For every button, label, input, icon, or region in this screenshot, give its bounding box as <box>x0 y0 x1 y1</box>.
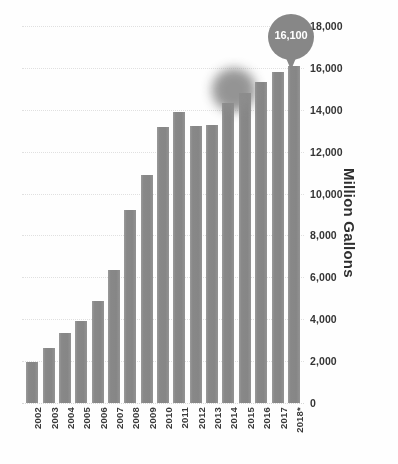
bar-slot <box>57 26 73 403</box>
bar-slot <box>188 26 204 403</box>
y-axis-tick-label: 0 <box>310 397 358 409</box>
y-axis-tick-label: 16,000 <box>310 62 358 74</box>
bar-2005 <box>75 321 87 403</box>
bar-2011 <box>173 112 185 403</box>
bar-chart-figure: 18,00016,00014,00012,00010,0008,0006,000… <box>0 0 398 464</box>
x-axis-slot: 2015 <box>237 406 253 450</box>
bar-slot <box>155 26 171 403</box>
x-axis-slot: 2009 <box>139 406 155 450</box>
x-axis-slot: 2011 <box>171 406 187 450</box>
bar-2015 <box>239 93 251 403</box>
x-axis-tick-label: 2018* <box>294 407 305 433</box>
x-axis-slot: 2003 <box>40 406 56 450</box>
bar-2006 <box>92 301 104 403</box>
bar-2016 <box>255 82 267 403</box>
bar-slot <box>286 26 302 403</box>
bar-2018 <box>288 66 300 403</box>
x-axis-slot: 2014 <box>220 406 236 450</box>
x-axis-slot: 2002 <box>24 406 40 450</box>
x-axis-slot: 2005 <box>73 406 89 450</box>
bar-slot <box>139 26 155 403</box>
bar-slot <box>89 26 105 403</box>
bar-slot <box>40 26 56 403</box>
bar-slot <box>269 26 285 403</box>
bar-series <box>22 26 304 403</box>
y-axis-tick-label: 18,000 <box>310 20 358 32</box>
bar-slot <box>171 26 187 403</box>
bar-2003 <box>43 348 55 403</box>
bar-slot <box>122 26 138 403</box>
y-axis-tick-label: 14,000 <box>310 104 358 116</box>
y-axis-tick-label: 12,000 <box>310 146 358 158</box>
bar-2007 <box>108 270 120 403</box>
bar-slot <box>220 26 236 403</box>
x-axis-slot: 2010 <box>155 406 171 450</box>
bar-2008 <box>124 210 136 403</box>
x-axis-slot: 2007 <box>106 406 122 450</box>
clipped-caption <box>0 455 398 464</box>
bar-slot <box>237 26 253 403</box>
x-axis-slot: 2017 <box>269 406 285 450</box>
bar-slot <box>204 26 220 403</box>
gridline <box>22 403 304 404</box>
plot-area <box>22 26 304 403</box>
bar-2010 <box>157 127 169 403</box>
bar-2013 <box>206 125 218 403</box>
x-axis-slot: 2018* <box>286 406 302 450</box>
x-axis: 2002200320042005200620072008200920102011… <box>22 406 304 450</box>
bar-slot <box>106 26 122 403</box>
x-axis-slot: 2013 <box>204 406 220 450</box>
y-axis-title: Million Gallons <box>341 168 358 278</box>
y-axis-tick-label: 4,000 <box>310 313 358 325</box>
x-axis-slot: 2006 <box>89 406 105 450</box>
bar-2009 <box>141 175 153 403</box>
x-axis-slot: 2004 <box>57 406 73 450</box>
x-axis-slot: 2012 <box>188 406 204 450</box>
bar-2014 <box>222 103 234 403</box>
bar-2004 <box>59 333 71 403</box>
y-axis-tick-label: 2,000 <box>310 355 358 367</box>
bar-2017 <box>272 72 284 403</box>
x-axis-slot: 2008 <box>122 406 138 450</box>
x-axis-slot: 2016 <box>253 406 269 450</box>
bar-2002 <box>26 362 38 403</box>
bar-slot <box>24 26 40 403</box>
bar-slot <box>253 26 269 403</box>
bar-slot <box>73 26 89 403</box>
bar-2012 <box>190 126 202 403</box>
